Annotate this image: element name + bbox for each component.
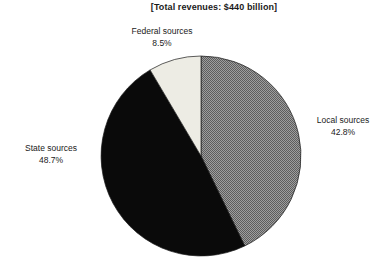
slice-label-local-name: Local sources bbox=[317, 115, 369, 127]
slice-label-local-pct: 42.8% bbox=[317, 127, 369, 139]
slice-label-state-name: State sources bbox=[25, 143, 77, 155]
slice-label-federal-pct: 8.5% bbox=[132, 38, 193, 50]
slice-label-local-sources: Local sources 42.8% bbox=[317, 115, 369, 138]
slice-label-state-sources: State sources 48.7% bbox=[25, 143, 77, 166]
slice-label-state-pct: 48.7% bbox=[25, 155, 77, 167]
slice-label-federal-sources: Federal sources 8.5% bbox=[132, 26, 193, 49]
slice-label-federal-name: Federal sources bbox=[132, 26, 193, 38]
pie-slices-group bbox=[101, 56, 301, 256]
chart-figure: [Total revenues: $440 billion] Local sou… bbox=[0, 0, 391, 271]
